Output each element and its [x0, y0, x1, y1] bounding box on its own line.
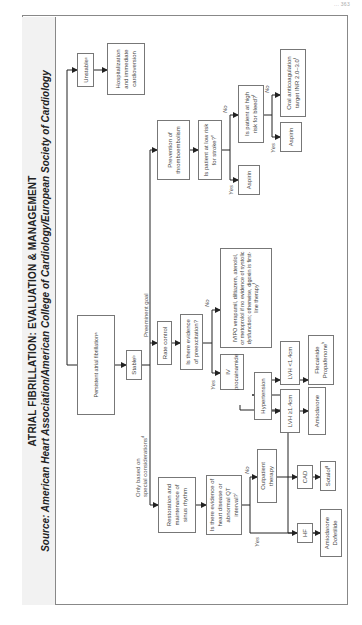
no-label-bleed: No — [264, 85, 270, 93]
aspirin-box-1: Aspirin — [238, 165, 260, 195]
page-header: ... 363 — [200, 1, 350, 7]
no-label-stroke: No — [222, 105, 228, 113]
stable-box: Stableb — [126, 350, 142, 380]
no-label-heart: No — [244, 466, 250, 474]
amiodarone-dofetilide-box: Amiodarone Dofetilide — [320, 509, 342, 557]
iv-po-verapamil-box: IV/PO verapamil, diltiazem, atenolol, or… — [220, 248, 272, 348]
oral-anticoagulation-box: Oral anticoagulation target INR 2.0–3.0f — [280, 49, 306, 117]
aspirin-box-2: Aspirin — [280, 122, 302, 152]
unstable-box: Unstablec — [77, 53, 94, 87]
outpatient-therapy-box: Outpatient therapy — [257, 449, 277, 503]
only-based-on-label: Only based on — [135, 458, 141, 497]
yes-label-bleed: Yes — [270, 143, 276, 153]
preexcitation-box: Is there evidence of preexcitation? — [180, 314, 203, 370]
prevention-box: Prevention of thromboembolism — [157, 120, 190, 180]
heart-disease-box: Is there evidence of heart disease or ab… — [206, 475, 242, 535]
sotalol-box: Sotalolg — [320, 461, 336, 491]
flowchart-page: ATRIAL FIBRILLATION: EVALUATION & MANAGE… — [22, 15, 348, 605]
cad-box: CAD — [297, 465, 313, 489]
lvh-lt-box: LVH <1.4cm — [280, 341, 300, 385]
rate-control-box: Rate control — [157, 321, 172, 365]
amiodarone-box: Amiodarone — [308, 387, 326, 435]
hypertension-box: Hypertension — [254, 372, 272, 420]
iv-procainamide-box: IV procainamide — [220, 354, 244, 390]
preeminent-goal-label: Preeminent goal — [143, 293, 149, 337]
yes-label-preexcitation: Yes — [210, 380, 216, 390]
no-label-preexcitation: No — [204, 299, 210, 307]
restoration-box: Restoration and maintenance of sinus rhy… — [158, 477, 196, 533]
persistent-af-box: Persistent atrial fibrillationa — [77, 315, 115, 415]
lvh-ge-box: LVH ≥1.4cm — [280, 389, 300, 433]
flecainide-propafenone-box: Flecainide Propafenoneh — [308, 335, 334, 385]
special-considerations-label: special considerationsd — [142, 436, 148, 497]
hospitalization-box: Hospitalization and immediate cardiovers… — [107, 43, 145, 95]
low-risk-stroke-box: Is patient at low risk for stroke?e — [198, 120, 222, 180]
yes-label-stroke: Yes — [228, 185, 234, 195]
hf-box: HF — [297, 523, 313, 543]
yes-label-heart: Yes — [254, 537, 260, 547]
high-risk-bleed-box: Is patient at high risk for bleed?f — [238, 85, 264, 143]
